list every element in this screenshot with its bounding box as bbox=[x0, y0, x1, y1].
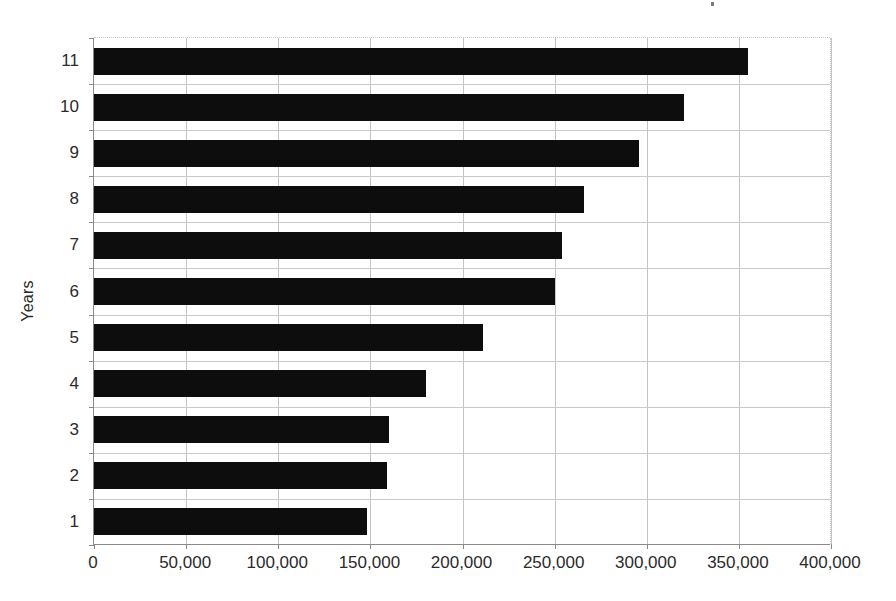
x-tick-label-0: 0 bbox=[88, 553, 97, 573]
x-tick-mark-150000 bbox=[370, 544, 371, 549]
y-tick-label-4: 4 bbox=[40, 361, 88, 407]
x-tick-mark-200000 bbox=[463, 544, 464, 549]
y-tick-mark-3 bbox=[89, 176, 94, 177]
plot-area bbox=[93, 38, 830, 545]
y-tick-mark-10 bbox=[89, 499, 94, 500]
y-tick-mark-1 bbox=[89, 84, 94, 85]
x-tick-mark-50000 bbox=[186, 544, 187, 549]
x-tick-mark-100000 bbox=[278, 544, 279, 549]
x-tick-mark-350000 bbox=[739, 544, 740, 549]
bar-year-11 bbox=[94, 48, 748, 75]
y-tick-label-8: 8 bbox=[40, 176, 88, 222]
x-tick-mark-300000 bbox=[647, 544, 648, 549]
y-tick-label-10: 10 bbox=[40, 84, 88, 130]
y-tick-mark-11 bbox=[89, 545, 94, 546]
x-tick-mark-0 bbox=[94, 544, 95, 549]
horizontal-gridline-9 bbox=[94, 453, 830, 454]
horizontal-gridline-7 bbox=[94, 361, 830, 362]
x-tick-label-150000: 150,000 bbox=[339, 553, 400, 573]
y-tick-mark-9 bbox=[89, 453, 94, 454]
x-tick-label-50000: 50,000 bbox=[159, 553, 211, 573]
y-axis-tick-labels: 1110987654321 bbox=[40, 38, 88, 545]
y-tick-mark-2 bbox=[89, 130, 94, 131]
vertical-gridline-350000 bbox=[739, 38, 740, 544]
horizontal-gridline-3 bbox=[94, 176, 830, 177]
y-axis-title-label: Years bbox=[19, 280, 37, 321]
scan-artifact-mark bbox=[711, 2, 714, 6]
y-tick-label-9: 9 bbox=[40, 130, 88, 176]
y-tick-label-1: 1 bbox=[40, 499, 88, 545]
x-axis-tick-labels: 050,000100,000150,000200,000250,000300,0… bbox=[93, 553, 830, 583]
bar-year-5 bbox=[94, 324, 483, 351]
bar-year-2 bbox=[94, 462, 387, 489]
y-tick-mark-5 bbox=[89, 268, 94, 269]
bar-year-1 bbox=[94, 508, 367, 535]
x-tick-label-300000: 300,000 bbox=[615, 553, 676, 573]
x-tick-mark-400000 bbox=[831, 544, 832, 549]
horizontal-gridline-1 bbox=[94, 84, 830, 85]
x-tick-label-350000: 350,000 bbox=[707, 553, 768, 573]
y-tick-label-11: 11 bbox=[40, 38, 88, 84]
x-tick-mark-250000 bbox=[555, 544, 556, 549]
horizontal-gridline-5 bbox=[94, 268, 830, 269]
bar-year-7 bbox=[94, 232, 562, 259]
y-tick-mark-7 bbox=[89, 361, 94, 362]
horizontal-gridline-6 bbox=[94, 315, 830, 316]
bar-chart: Years 1110987654321 050,000100,000150,00… bbox=[0, 0, 896, 601]
y-tick-label-3: 3 bbox=[40, 407, 88, 453]
horizontal-gridline-8 bbox=[94, 407, 830, 408]
horizontal-gridline-2 bbox=[94, 130, 830, 131]
vertical-gridline-400000 bbox=[831, 38, 832, 544]
y-tick-label-6: 6 bbox=[40, 268, 88, 314]
bar-year-3 bbox=[94, 416, 389, 443]
x-tick-label-100000: 100,000 bbox=[247, 553, 308, 573]
y-tick-mark-0 bbox=[89, 38, 94, 39]
y-tick-mark-8 bbox=[89, 407, 94, 408]
bar-year-6 bbox=[94, 278, 555, 305]
x-tick-label-200000: 200,000 bbox=[431, 553, 492, 573]
y-tick-mark-6 bbox=[89, 315, 94, 316]
horizontal-gridline-4 bbox=[94, 222, 830, 223]
y-tick-label-7: 7 bbox=[40, 222, 88, 268]
bar-year-9 bbox=[94, 140, 639, 167]
y-tick-mark-4 bbox=[89, 222, 94, 223]
bar-year-10 bbox=[94, 94, 684, 121]
y-tick-label-5: 5 bbox=[40, 315, 88, 361]
horizontal-gridline-10 bbox=[94, 499, 830, 500]
bar-year-4 bbox=[94, 370, 426, 397]
x-tick-label-250000: 250,000 bbox=[523, 553, 584, 573]
y-tick-label-2: 2 bbox=[40, 453, 88, 499]
bar-year-8 bbox=[94, 186, 584, 213]
x-tick-label-400000: 400,000 bbox=[799, 553, 860, 573]
